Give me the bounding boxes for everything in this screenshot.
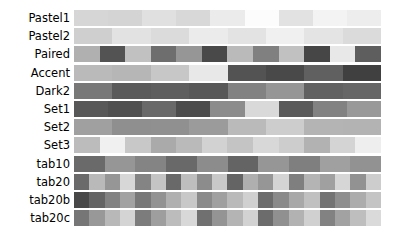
colormap-swatch (330, 46, 356, 62)
colormap-swatch (266, 83, 304, 99)
colormap-swatch (151, 174, 166, 190)
colormap-row: tab20 (0, 174, 396, 190)
colormap-row: Set3 (0, 137, 396, 153)
colormap-swatch (343, 28, 381, 44)
colormap-swatch (320, 192, 335, 208)
colormap-swatch (166, 210, 181, 226)
colormap-swatch (189, 119, 227, 135)
colormap-swatch (335, 210, 350, 226)
colormap-label: Pastel1 (0, 10, 74, 26)
colormap-swatch (202, 46, 228, 62)
colormap-swatch (304, 192, 319, 208)
colormap-swatch (347, 101, 381, 117)
colormap-swatch (366, 174, 381, 190)
colormap-bar (74, 174, 381, 190)
colormap-swatch (112, 119, 150, 135)
colormap-swatch (210, 10, 244, 26)
colormap-bar (74, 10, 381, 26)
colormap-swatch (108, 101, 142, 117)
colormap-bar (74, 210, 381, 226)
colormap-swatch (347, 10, 381, 26)
colormap-swatch (253, 46, 279, 62)
colormap-swatch (120, 192, 135, 208)
colormap-swatch (335, 174, 350, 190)
colormap-bar (74, 156, 381, 172)
colormap-swatch (176, 101, 210, 117)
colormap-bar (74, 46, 381, 62)
colormap-swatch (245, 10, 279, 26)
colormap-bar (74, 28, 381, 44)
colormap-label: tab10 (0, 156, 74, 172)
colormap-swatch (245, 101, 279, 117)
colormap-swatch (258, 192, 273, 208)
colormap-swatch (304, 210, 319, 226)
colormap-swatch (355, 46, 381, 62)
colormap-bar (74, 119, 381, 135)
colormap-swatch (166, 156, 197, 172)
colormap-swatch (304, 137, 330, 153)
colormap-swatch (74, 101, 108, 117)
colormap-bar (74, 101, 381, 117)
colormap-row: Pastel1 (0, 10, 396, 26)
colormap-swatch (212, 174, 227, 190)
colormap-swatch (350, 210, 365, 226)
colormap-swatch (125, 137, 151, 153)
colormap-row: Pastel2 (0, 28, 396, 44)
colormap-swatch (151, 192, 166, 208)
colormap-swatch (320, 174, 335, 190)
colormap-swatch (120, 174, 135, 190)
colormap-swatch (89, 174, 104, 190)
colormap-swatch (105, 210, 120, 226)
colormap-swatch (304, 28, 342, 44)
colormap-swatch (112, 83, 150, 99)
colormap-swatch (142, 10, 176, 26)
colormap-swatch (228, 119, 266, 135)
colormap-label: Paired (0, 46, 74, 62)
colormap-swatch (74, 119, 112, 135)
colormap-swatch (350, 174, 365, 190)
colormap-row: tab20b (0, 192, 396, 208)
colormap-label: Accent (0, 65, 74, 81)
colormap-swatch (74, 83, 112, 99)
colormap-swatch (228, 28, 266, 44)
colormap-swatch (266, 119, 304, 135)
colormap-swatch (266, 65, 304, 81)
colormap-swatch (189, 83, 227, 99)
colormap-swatch (166, 192, 181, 208)
colormap-swatch (227, 174, 242, 190)
colormap-swatch (227, 210, 242, 226)
colormap-swatch (330, 137, 356, 153)
colormap-row: tab10 (0, 156, 396, 172)
colormap-swatch (135, 156, 166, 172)
colormap-swatch (202, 137, 228, 153)
colormap-swatch (266, 28, 304, 44)
colormap-swatch (243, 192, 258, 208)
colormap-label: Set2 (0, 119, 74, 135)
colormap-swatch (350, 192, 365, 208)
colormap-swatch (100, 137, 126, 153)
colormap-swatch (74, 137, 100, 153)
colormap-label: tab20b (0, 192, 74, 208)
colormap-label: tab20 (0, 174, 74, 190)
colormap-swatch (228, 156, 259, 172)
colormap-swatch (108, 10, 142, 26)
colormap-swatch (181, 192, 196, 208)
colormap-swatch (176, 137, 202, 153)
colormap-swatch (273, 192, 288, 208)
colormap-swatch (89, 192, 104, 208)
colormap-swatch (120, 210, 135, 226)
colormap-swatch (304, 65, 342, 81)
colormap-label: tab20c (0, 210, 74, 226)
colormap-swatch (100, 46, 126, 62)
colormap-swatch (343, 65, 381, 81)
colormap-reference-figure: Pastel1Pastel2PairedAccentDark2Set1Set2S… (0, 0, 396, 235)
colormap-swatch (151, 65, 189, 81)
colormap-swatch (151, 119, 189, 135)
colormap-swatch (253, 137, 279, 153)
colormap-bar (74, 65, 381, 81)
colormap-row: Set1 (0, 101, 396, 117)
colormap-swatch (313, 101, 347, 117)
colormap-swatch (151, 28, 189, 44)
colormap-swatch (105, 192, 120, 208)
colormap-row: Dark2 (0, 83, 396, 99)
